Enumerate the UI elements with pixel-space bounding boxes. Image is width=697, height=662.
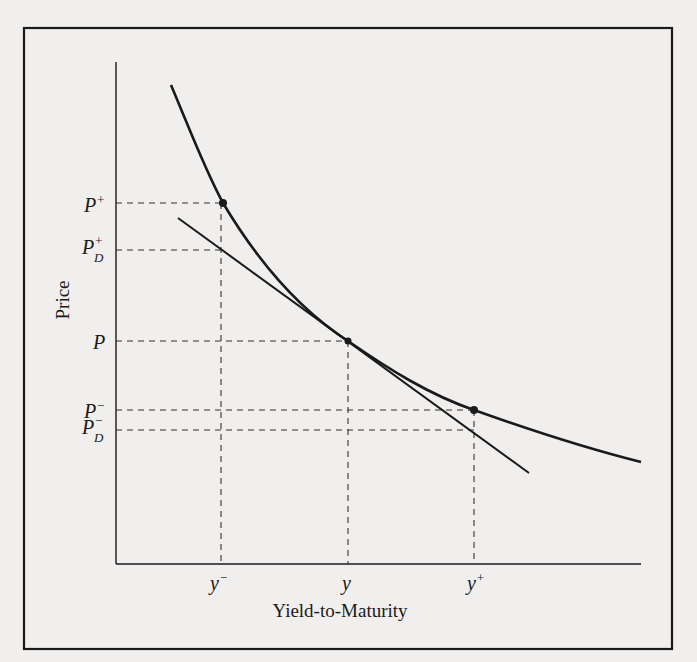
point-p-plus bbox=[219, 199, 227, 207]
price-yield-curve bbox=[171, 85, 641, 462]
label-y-minus: y− bbox=[208, 570, 228, 595]
label-p-d-minus: P−D bbox=[81, 413, 104, 445]
y-axis-title: Price bbox=[52, 280, 73, 319]
point-p-minus bbox=[470, 406, 478, 414]
label-p-d-plus: P+D bbox=[81, 233, 104, 265]
guide-lines bbox=[116, 203, 474, 564]
label-y: y bbox=[340, 572, 351, 595]
label-p-plus: P+ bbox=[83, 192, 105, 216]
point-p bbox=[345, 338, 352, 345]
duration-tangent-line bbox=[178, 218, 529, 473]
label-p: P bbox=[92, 331, 105, 353]
price-yield-diagram: P+ P+D P P− P−D y− y y+ Price Yield-to-M… bbox=[0, 0, 697, 662]
label-y-plus: y+ bbox=[465, 570, 485, 595]
x-axis-title: Yield-to-Maturity bbox=[272, 600, 408, 621]
